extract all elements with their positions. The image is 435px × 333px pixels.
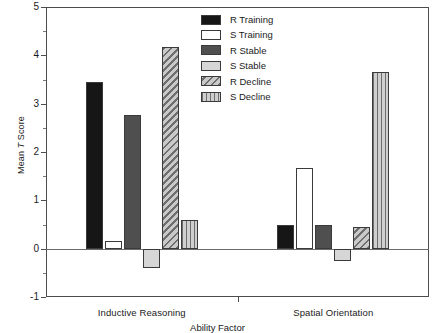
legend-swatch-icon xyxy=(201,45,221,55)
y-tick-label: 5 xyxy=(33,2,39,12)
legend-label: S Training xyxy=(230,30,273,40)
bar-s-decline-inductive-reasoning xyxy=(181,220,198,249)
bar-s-training-inductive-reasoning xyxy=(105,241,122,248)
legend-item-r-training[interactable]: R Training xyxy=(201,12,273,27)
legend-item-s-stable[interactable]: S Stable xyxy=(201,58,273,73)
legend-swatch-icon xyxy=(201,76,221,86)
y-minor-tick-mark xyxy=(43,225,46,226)
y-tick-mark xyxy=(41,104,46,105)
y-axis-title: Mean T Score xyxy=(16,75,26,215)
y-axis-title-prefix: Mean xyxy=(16,148,26,174)
y-tick-label: 2 xyxy=(33,147,39,157)
y-minor-tick-mark xyxy=(43,273,46,274)
y-tick-label: 4 xyxy=(33,50,39,60)
legend-label: R Training xyxy=(230,15,273,25)
bar-s-decline-spatial-orientation xyxy=(372,72,389,248)
y-minor-tick-mark xyxy=(43,128,46,129)
legend-swatch-icon xyxy=(201,61,221,71)
legend-label: S Stable xyxy=(230,61,266,71)
legend-swatch-icon xyxy=(201,30,221,40)
y-axis-title-suffix: Score xyxy=(16,116,26,143)
bar-r-stable-inductive-reasoning xyxy=(124,115,141,249)
x-tick-mark xyxy=(238,297,239,302)
bar-s-stable-inductive-reasoning xyxy=(143,249,160,268)
legend: R TrainingS TrainingR StableS StableR De… xyxy=(201,12,273,104)
legend-item-r-stable[interactable]: R Stable xyxy=(201,43,273,58)
bar-s-stable-spatial-orientation xyxy=(334,249,351,261)
y-tick-label: -1 xyxy=(30,292,39,302)
y-minor-tick-mark xyxy=(43,31,46,32)
y-tick-label: 1 xyxy=(33,195,39,205)
y-tick-mark xyxy=(41,7,46,8)
y-minor-tick-mark xyxy=(43,176,46,177)
legend-item-s-training[interactable]: S Training xyxy=(201,27,273,42)
y-minor-tick-mark xyxy=(43,80,46,81)
legend-item-s-decline[interactable]: S Decline xyxy=(201,89,273,104)
x-axis-title: Ability Factor xyxy=(0,322,435,333)
y-tick-mark xyxy=(41,55,46,56)
legend-label: S Decline xyxy=(230,92,271,102)
zero-reference-line xyxy=(46,249,429,250)
y-tick-mark xyxy=(41,200,46,201)
legend-label: R Decline xyxy=(230,77,271,87)
plot-top-border xyxy=(46,7,429,8)
y-tick-mark xyxy=(41,249,46,250)
bar-s-training-spatial-orientation xyxy=(296,168,313,249)
legend-item-r-decline[interactable]: R Decline xyxy=(201,74,273,89)
bar-r-training-spatial-orientation xyxy=(277,225,294,249)
y-axis-title-italic: T xyxy=(16,143,26,149)
y-axis-line xyxy=(46,7,47,297)
y-tick-label: 3 xyxy=(33,99,39,109)
group-label-spatial-orientation: Spatial Orientation xyxy=(293,307,373,318)
y-tick-mark xyxy=(41,152,46,153)
y-tick-label: 0 xyxy=(33,244,39,254)
plot-right-border xyxy=(428,7,429,297)
legend-swatch-icon xyxy=(201,92,221,102)
group-label-inductive-reasoning: Inductive Reasoning xyxy=(98,307,186,318)
bar-r-training-inductive-reasoning xyxy=(86,82,103,249)
bar-r-decline-inductive-reasoning xyxy=(162,47,179,249)
legend-swatch-icon xyxy=(201,15,221,25)
bar-r-decline-spatial-orientation xyxy=(353,227,370,249)
legend-label: R Stable xyxy=(230,46,266,56)
bar-r-stable-spatial-orientation xyxy=(315,225,332,249)
y-tick-mark xyxy=(41,297,46,298)
